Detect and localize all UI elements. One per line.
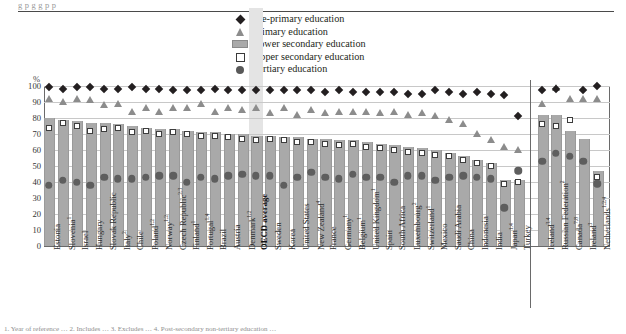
marker-tertiary (183, 178, 191, 186)
marker-tertiary (445, 173, 453, 181)
marker-primary (142, 104, 150, 111)
marker-primary (252, 104, 260, 111)
y-tick-label-0: 0 (37, 241, 41, 251)
marker-upper-secondary (350, 141, 356, 147)
x-axis-label-united-states: United States (301, 203, 311, 250)
marker-primary (431, 112, 439, 119)
marker-tertiary (252, 172, 260, 180)
marker-tertiary (501, 204, 509, 212)
marker-upper-secondary (377, 145, 383, 151)
marker-upper-secondary (156, 131, 162, 137)
marker-tertiary (211, 175, 219, 183)
marker-upper-secondary (567, 117, 573, 123)
marker-primary (100, 101, 108, 108)
x-axis-label-chile: Chile (135, 231, 145, 250)
marker-pre-primary (593, 81, 602, 90)
marker-pre-primary (431, 86, 440, 95)
marker-upper-secondary (46, 125, 52, 131)
marker-primary (197, 100, 205, 107)
bar-swatch (232, 40, 248, 48)
footnote: 1. Year of reference … 2. Includes … 3. … (4, 325, 624, 333)
marker-tertiary (266, 172, 274, 180)
gridline-90: 90 (44, 102, 610, 103)
marker-pre-primary (362, 88, 371, 97)
marker-upper-secondary (553, 123, 559, 129)
marker-primary (266, 109, 274, 116)
marker-upper-secondary (170, 129, 176, 135)
marker-pre-primary (279, 86, 288, 95)
marker-upper-secondary (101, 126, 107, 132)
x-axis-label-united-kingdom: United Kingdom1 (370, 189, 381, 250)
x-axis-label-belgium: Belgium1 (356, 217, 367, 250)
panel-separator (530, 80, 531, 308)
marker-primary (73, 95, 81, 102)
marker-pre-primary (265, 86, 274, 95)
marker-upper-secondary (115, 125, 121, 131)
marker-upper-secondary (184, 131, 190, 137)
bar-chile[interactable] (127, 126, 138, 246)
x-axis-label-ireland: Ireland3 (587, 223, 598, 250)
marker-upper-secondary (488, 163, 494, 169)
marker-upper-secondary (515, 179, 521, 185)
marker-pre-primary (514, 112, 523, 121)
marker-upper-secondary (294, 139, 300, 145)
x-axis-label-italy: Italy2 (121, 231, 132, 250)
marker-primary (307, 106, 315, 113)
marker-pre-primary (472, 88, 481, 97)
marker-pre-primary (127, 83, 136, 92)
marker-upper-secondary (391, 147, 397, 153)
y-tick-label-60: 60 (32, 145, 41, 155)
marker-pre-primary (334, 86, 343, 95)
x-axis-label-india: India (494, 232, 504, 250)
marker-pre-primary (445, 88, 454, 97)
x-axis-label-new-zealand: New Zealand4 (315, 201, 326, 250)
marker-tertiary (128, 175, 136, 183)
marker-pre-primary (196, 86, 205, 95)
marker-tertiary (197, 173, 205, 181)
chart-figure: g p g g p p Pre-primary educationPrimary… (0, 0, 626, 334)
x-axis-label-china: China (466, 229, 476, 250)
marker-primary (404, 111, 412, 118)
marker-tertiary (552, 149, 560, 157)
x-axis-label-russian-federation: Russian Federation2 (559, 180, 570, 250)
marker-primary (293, 111, 301, 118)
circle-marker (232, 66, 248, 74)
marker-tertiary (238, 170, 246, 178)
x-axis-label-mexico: Mexico (439, 223, 449, 250)
y-tick-label-90: 90 (32, 97, 41, 107)
marker-primary (473, 130, 481, 137)
marker-primary (579, 95, 587, 102)
marker-upper-secondary (239, 136, 245, 142)
marker-primary (114, 100, 122, 107)
x-axis-label-japan: Japan1,4 (508, 223, 519, 250)
x-axis-label-norway: Norway1,2 (163, 215, 174, 250)
marker-pre-primary (320, 88, 329, 97)
x-axis-label-spain: Spain (384, 230, 394, 250)
marker-primary (390, 108, 398, 115)
marker-upper-secondary (460, 157, 466, 163)
legend-label: Tertiary education (253, 63, 327, 76)
marker-upper-secondary (267, 136, 273, 142)
marker-pre-primary (538, 86, 547, 95)
marker-primary (593, 95, 601, 102)
marker-tertiary (73, 178, 81, 186)
marker-upper-secondary (143, 128, 149, 134)
marker-tertiary (114, 175, 122, 183)
marker-pre-primary (182, 86, 191, 95)
marker-pre-primary (86, 83, 95, 92)
plot-area: 0102030405060708090100 (44, 86, 610, 246)
marker-tertiary (432, 177, 440, 185)
marker-pre-primary (293, 86, 302, 95)
marker-upper-secondary (60, 120, 66, 126)
marker-pre-primary (376, 88, 385, 97)
marker-primary (169, 104, 177, 111)
x-axis-label-turkey: Turkey (522, 225, 532, 250)
marker-tertiary (169, 172, 177, 180)
x-axis-label-austria: Austria (232, 224, 242, 250)
marker-primary (566, 95, 574, 102)
marker-primary (86, 96, 94, 103)
marker-primary (321, 109, 329, 116)
marker-pre-primary (72, 83, 81, 92)
marker-upper-secondary (322, 141, 328, 147)
marker-primary (459, 120, 467, 127)
